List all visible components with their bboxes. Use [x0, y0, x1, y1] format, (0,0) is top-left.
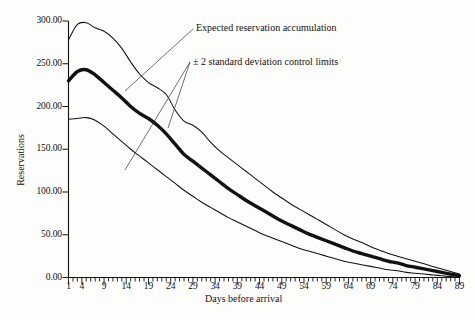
y-axis-tick-label: 200.00	[20, 101, 62, 111]
leader-line-expected	[125, 29, 193, 91]
chart-canvas: Reservations	[0, 0, 475, 320]
y-axis-tick-label: 250.00	[20, 58, 62, 68]
y-axis-tick-label: 150.00	[20, 143, 62, 153]
y-axis-ticks	[63, 21, 69, 278]
leader-line-upper-limit	[168, 62, 190, 128]
annotation-expected-accumulation: Expected reservation accumulation	[196, 22, 337, 33]
y-axis-tick-label: 100.00	[20, 186, 62, 196]
y-axis-tick-label: 0.00	[20, 272, 62, 282]
series-expected-accumulation	[69, 69, 460, 275]
annotation-control-limits: ± 2 standard deviation control limits	[193, 56, 338, 67]
y-axis-tick-label: 50.00	[20, 229, 62, 239]
series-lower-control-limit	[69, 118, 460, 278]
reservation-accumulation-chart: Reservations 149141924293439444954596469…	[0, 0, 475, 320]
annotation-leader-lines	[125, 29, 193, 170]
y-axis-tick-label: 300.00	[20, 15, 62, 25]
y-axis-title: Reservations	[15, 134, 26, 186]
x-axis-title: Days before arrival	[205, 293, 282, 304]
x-axis-tick-label: 89	[445, 281, 475, 291]
leader-line-lower-limit	[125, 62, 190, 170]
